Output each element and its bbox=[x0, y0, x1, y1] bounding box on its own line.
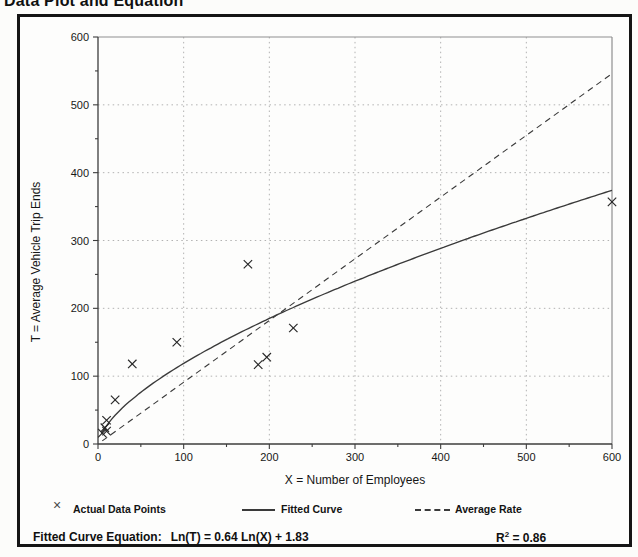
scatter-marker-icon: × bbox=[53, 497, 61, 513]
x-tick-label: 600 bbox=[603, 451, 621, 463]
x-tick-label: 100 bbox=[174, 451, 192, 463]
y-tick-label: 600 bbox=[71, 31, 89, 43]
y-tick-label: 0 bbox=[83, 438, 89, 450]
fitted-curve bbox=[101, 190, 612, 433]
y-axis-label-wrap: T = Average Vehicle Trip Ends bbox=[27, 58, 45, 465]
legend-actual-data-points: Actual Data Points bbox=[73, 503, 166, 515]
y-tick-label: 300 bbox=[71, 235, 89, 247]
y-tick-label: 400 bbox=[71, 167, 89, 179]
legend-fitted-curve: Fitted Curve bbox=[281, 503, 342, 515]
data-points bbox=[98, 198, 616, 438]
fitted-curve-equation: Fitted Curve Equation:Ln(T) = 0.64 Ln(X)… bbox=[33, 530, 309, 544]
y-tick-label: 200 bbox=[71, 302, 89, 314]
average-rate-line bbox=[102, 74, 612, 441]
x-tick-label: 500 bbox=[517, 451, 535, 463]
figure-page: Data Plot and Equation 01002003004005006… bbox=[0, 0, 638, 557]
equation-label: Fitted Curve Equation: bbox=[33, 530, 162, 544]
legend-average-rate: Average Rate bbox=[455, 503, 522, 515]
x-tick-label: 300 bbox=[346, 451, 364, 463]
x-tick-label: 400 bbox=[431, 451, 449, 463]
axis-ticks bbox=[93, 37, 612, 449]
x-axis-label: X = Number of Employees bbox=[98, 473, 612, 487]
x-tick-label: 0 bbox=[95, 451, 101, 463]
average-rate-line-sample bbox=[415, 509, 450, 511]
equation-formula: Ln(T) = 0.64 Ln(X) + 1.83 bbox=[171, 530, 309, 544]
tick-labels: 01002003004005006000100200300400500600 bbox=[71, 31, 622, 463]
y-tick-label: 500 bbox=[71, 99, 89, 111]
r-squared-value: R2 = 0.86 bbox=[496, 530, 546, 545]
y-tick-label: 100 bbox=[71, 370, 89, 382]
x-tick-label: 200 bbox=[260, 451, 278, 463]
y-axis-label: T = Average Vehicle Trip Ends bbox=[29, 181, 43, 342]
fitted-curve-line-sample bbox=[242, 509, 275, 511]
gridlines bbox=[98, 37, 612, 444]
